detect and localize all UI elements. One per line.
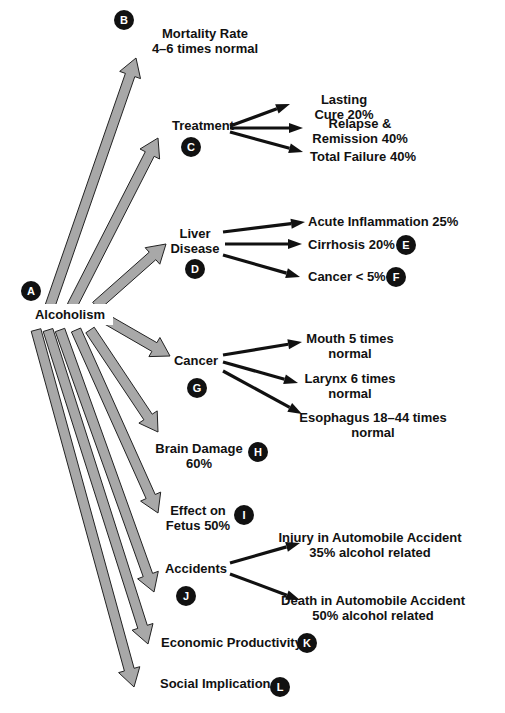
node-cancer: Cancer <box>174 353 218 368</box>
node-accidents-child-1-line: 50% alcohol related <box>312 608 433 623</box>
node-liver-child-1-line: Cirrhosis 20% <box>308 237 395 252</box>
badge-L: L <box>270 677 290 697</box>
node-treatment-child-1-line: Remission 40% <box>312 131 408 146</box>
node-treatment: Treatment <box>172 118 235 133</box>
node-mortality-line: 4–6 times normal <box>152 41 258 56</box>
badge-letter: B <box>120 14 128 26</box>
node-treatment-line: Treatment <box>172 118 235 133</box>
node-cancer-child-1-line: normal <box>328 386 371 401</box>
badge-letter: E <box>402 239 409 251</box>
node-brain: Brain Damage60% <box>155 441 242 471</box>
node-treatment-child-2-line: Total Failure 40% <box>310 149 416 164</box>
badge-letter: L <box>277 681 284 693</box>
arrow-accidents-child-0 <box>230 542 300 563</box>
badge-K: K <box>297 633 317 653</box>
node-cancer-child-2-line: Esophagus 18–44 times <box>299 410 446 425</box>
node-liver-child-0-line: Acute Inflammation 25% <box>308 214 459 229</box>
node-economic-line: Economic Productivity <box>161 635 303 650</box>
node-accidents-line: Accidents <box>165 561 227 576</box>
badge-F: F <box>386 267 406 287</box>
badge-G: G <box>187 378 207 398</box>
alcoholism-diagram: AlcoholismMortality Rate4–6 times normal… <box>0 0 505 713</box>
node-treatment-child-1-line: Relapse & <box>329 116 392 131</box>
arrow-treatment-child-1 <box>230 123 303 133</box>
node-cancer-child-0: Mouth 5 timesnormal <box>306 331 393 361</box>
badge-C: C <box>181 137 201 157</box>
node-treatment-child-0-line: Lasting <box>321 92 367 107</box>
badge-I: I <box>234 505 254 525</box>
node-brain-line: 60% <box>186 456 212 471</box>
badge-letter: A <box>27 285 35 297</box>
node-cancer-child-1-line: Larynx 6 times <box>304 371 395 386</box>
node-liver-child-2: Cancer < 5% <box>308 269 386 284</box>
node-cancer-child-0-line: Mouth 5 times <box>306 331 393 346</box>
node-accidents-child-0-line: Injury in Automobile Accident <box>278 530 462 545</box>
node-accidents-child-0-line: 35% alcohol related <box>309 545 430 560</box>
node-accidents-child-1-line: Death in Automobile Accident <box>281 593 466 608</box>
node-accidents: Accidents <box>165 561 227 576</box>
node-treatment-child-2: Total Failure 40% <box>310 149 416 164</box>
node-liver-line: Liver <box>179 226 210 241</box>
arrow-liver-child-1 <box>225 239 302 249</box>
badge-letter: G <box>193 382 202 394</box>
node-cancer-line: Cancer <box>174 353 218 368</box>
arrow-cancer-child-1 <box>223 362 298 384</box>
badge-letter: C <box>187 141 195 153</box>
badge-letter: H <box>254 446 262 458</box>
badge-J: J <box>176 586 196 606</box>
node-cancer-child-1: Larynx 6 timesnormal <box>304 371 395 401</box>
node-mortality: Mortality Rate4–6 times normal <box>152 26 258 56</box>
node-liver-child-2-line: Cancer < 5% <box>308 269 386 284</box>
node-fetus-line: Fetus 50% <box>166 518 231 533</box>
node-cancer-child-2-line: normal <box>351 425 394 440</box>
badge-letter: D <box>191 263 199 275</box>
badge-letter: K <box>303 637 311 649</box>
node-liver: LiverDisease <box>170 226 219 256</box>
arrow-treatment-child-0 <box>230 104 290 126</box>
badge-letter: I <box>242 509 245 521</box>
badge-letter: J <box>183 590 189 602</box>
node-accidents-child-1: Death in Automobile Accident50% alcohol … <box>281 593 466 623</box>
arrow-treatment-child-2 <box>230 132 303 153</box>
arrow-liver-child-2 <box>223 255 300 278</box>
node-fetus: Effect onFetus 50% <box>166 503 231 533</box>
badge-B: B <box>114 10 134 30</box>
node-economic: Economic Productivity <box>161 635 303 650</box>
badge-E: E <box>396 235 416 255</box>
node-social: Social Implication <box>160 676 271 691</box>
arrow-cancer-child-0 <box>223 339 302 355</box>
node-social-line: Social Implication <box>160 676 271 691</box>
node-brain-line: Brain Damage <box>155 441 242 456</box>
badge-A: A <box>21 281 41 301</box>
node-accidents-child-0: Injury in Automobile Accident35% alcohol… <box>278 530 462 560</box>
node-cancer-child-2: Esophagus 18–44 timesnormal <box>299 410 446 440</box>
node-mortality-line: Mortality Rate <box>162 26 248 41</box>
badge-letter: F <box>393 271 400 283</box>
badge-H: H <box>248 442 268 462</box>
node-liver-child-0: Acute Inflammation 25% <box>308 214 459 229</box>
node-fetus-line: Effect on <box>170 503 226 518</box>
root-label: Alcoholism <box>35 307 105 322</box>
node-liver-line: Disease <box>170 241 219 256</box>
node-liver-child-1: Cirrhosis 20% <box>308 237 395 252</box>
arrow-liver-child-0 <box>223 219 305 232</box>
node-cancer-child-0-line: normal <box>328 346 371 361</box>
badge-D: D <box>185 259 205 279</box>
